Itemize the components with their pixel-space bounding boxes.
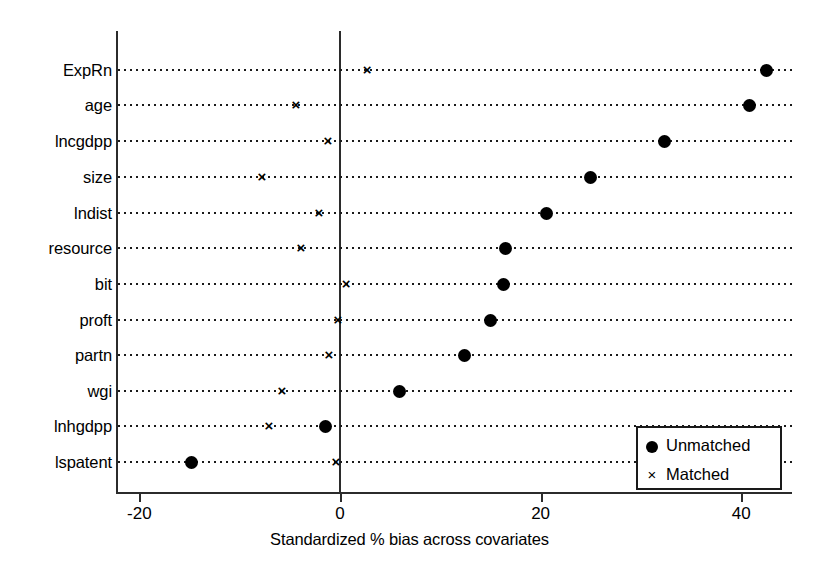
data-point-unmatched — [658, 135, 671, 148]
gridline-dotted — [118, 104, 792, 106]
covariate-row: bit× — [0, 275, 819, 293]
data-point-unmatched — [584, 171, 597, 184]
covariate-row: size× — [0, 168, 819, 186]
x-marker-icon: × — [638, 466, 666, 483]
covariate-row: lncgdpp× — [0, 132, 819, 150]
data-point-matched: × — [290, 96, 302, 114]
data-point-unmatched — [393, 385, 406, 398]
filled-circle-icon — [638, 437, 666, 454]
covariate-row: lndist× — [0, 204, 819, 222]
gridline-dotted — [118, 140, 792, 142]
legend-label-matched: Matched — [666, 466, 729, 483]
gridline-dotted — [118, 283, 792, 285]
legend-entry-matched: × Matched — [638, 459, 784, 489]
gridline-dotted — [118, 176, 792, 178]
data-point-matched: × — [263, 417, 275, 435]
covariate-row: wgi× — [0, 382, 819, 400]
y-axis-tick-label: lndist — [74, 204, 112, 222]
covariate-row: partn× — [0, 346, 819, 364]
data-point-matched: × — [256, 168, 268, 186]
data-point-unmatched — [185, 456, 198, 469]
gridline-dotted — [118, 247, 792, 249]
data-point-unmatched — [499, 242, 512, 255]
gridline-dotted — [118, 69, 792, 71]
y-axis-tick-label: resource — [49, 239, 112, 257]
data-point-unmatched — [484, 314, 497, 327]
data-point-unmatched — [540, 207, 553, 220]
y-axis-tick-label: lnhgdpp — [54, 417, 112, 435]
gridline-dotted — [118, 319, 792, 321]
data-point-unmatched — [497, 278, 510, 291]
data-point-matched: × — [332, 311, 344, 329]
covariate-row: age× — [0, 96, 819, 114]
data-point-unmatched — [458, 349, 471, 362]
gridline-dotted — [118, 212, 792, 214]
y-axis-tick-label: partn — [75, 346, 112, 364]
y-axis-tick-label: wgi — [88, 382, 112, 400]
covariate-balance-chart: ExpRn×age×lncgdpp×size×lndist×resource×b… — [0, 0, 819, 583]
y-axis-tick-label: lncgdpp — [55, 132, 112, 150]
data-point-matched: × — [313, 204, 325, 222]
data-point-unmatched — [319, 420, 332, 433]
y-axis-tick-label: age — [85, 96, 112, 114]
legend-entry-unmatched: Unmatched — [638, 430, 784, 460]
data-point-unmatched — [743, 99, 756, 112]
y-axis-tick-label: bit — [95, 275, 112, 293]
data-point-matched: × — [340, 275, 352, 293]
x-axis-line — [116, 492, 792, 494]
x-axis-tick — [139, 493, 141, 502]
y-axis-tick-label: size — [83, 168, 112, 186]
data-point-matched: × — [276, 382, 288, 400]
covariate-row: proft× — [0, 311, 819, 329]
x-axis-tick-label: 0 — [310, 504, 370, 524]
y-axis-tick-label: lspatent — [55, 453, 112, 471]
x-axis-tick — [741, 493, 743, 502]
legend: Unmatched × Matched — [636, 426, 782, 490]
gridline-dotted — [118, 354, 792, 356]
data-point-unmatched — [760, 64, 773, 77]
x-axis-tick-label: 40 — [711, 504, 771, 524]
data-point-matched: × — [361, 61, 373, 79]
y-axis-tick-label: proft — [79, 311, 112, 329]
legend-label-unmatched: Unmatched — [666, 437, 750, 454]
x-axis-title: Standardized % bias across covariates — [0, 530, 819, 549]
x-axis-tick — [340, 493, 342, 502]
covariate-row: ExpRn× — [0, 61, 819, 79]
data-point-matched: × — [295, 239, 307, 257]
x-axis-tick — [541, 493, 543, 502]
covariate-row: resource× — [0, 239, 819, 257]
x-axis-tick-label: 20 — [511, 504, 571, 524]
data-point-matched: × — [323, 346, 335, 364]
x-axis-tick-label: -20 — [109, 504, 169, 524]
data-point-matched: × — [322, 132, 334, 150]
y-axis-tick-label: ExpRn — [63, 61, 112, 79]
gridline-dotted — [118, 390, 792, 392]
data-point-matched: × — [330, 453, 342, 471]
